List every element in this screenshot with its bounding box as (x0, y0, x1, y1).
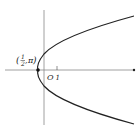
point-label: ( 1 2 , π ) (16, 53, 37, 67)
svg-text:): ) (32, 55, 37, 65)
tick-1-label: 1 (56, 74, 60, 82)
axis-end-dot (133, 69, 135, 71)
vertex-point (36, 68, 40, 72)
origin-label: O (47, 73, 54, 82)
polar-diagram: ( 1 2 , π ) O 1 (0, 0, 136, 127)
svg-text:(: ( (16, 55, 20, 65)
